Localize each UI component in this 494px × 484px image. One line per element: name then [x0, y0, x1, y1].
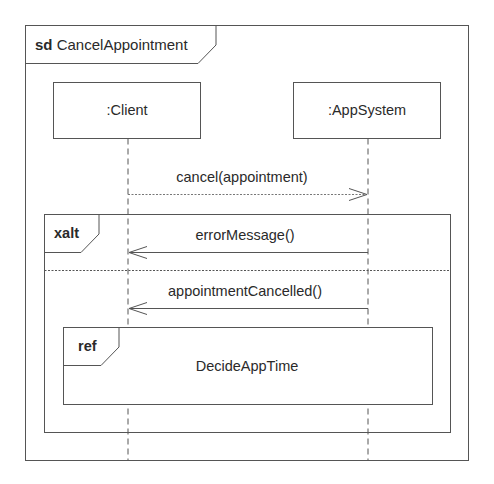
ref-interaction-name: DecideAppTime — [196, 359, 299, 374]
message-cancelled-label: appointmentCancelled() — [168, 284, 322, 299]
sd-keyword: sd — [35, 36, 53, 53]
ref-operator-label: ref — [78, 339, 97, 354]
message-cancel-label: cancel(appointment) — [176, 170, 307, 185]
lifeline-appsystem-label: :AppSystem — [328, 103, 406, 118]
sd-name: CancelAppointment — [57, 36, 188, 53]
lifeline-client-label: :Client — [106, 103, 147, 118]
alt-operator-label: xalt — [54, 226, 79, 241]
sd-frame-title: sd CancelAppointment — [35, 37, 188, 52]
message-error-label: errorMessage() — [195, 228, 294, 243]
